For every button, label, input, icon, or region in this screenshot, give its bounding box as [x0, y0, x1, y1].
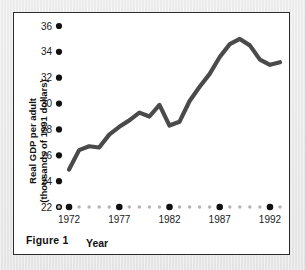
- x-tick-label: 1977: [108, 214, 131, 225]
- x-tick-label: 1987: [209, 214, 232, 225]
- x-major-tick-dot: [66, 204, 73, 211]
- x-minor-tick-dot: [248, 205, 251, 208]
- x-major-tick-dot: [216, 204, 223, 211]
- x-minor-tick-dot: [77, 205, 80, 208]
- y-tick-dot: [56, 75, 62, 81]
- x-minor-tick-dot: [158, 205, 161, 208]
- y-tick-dot: [56, 49, 62, 55]
- gdp-line-chart: 2224262830323436 19721977198219871992 Ye…: [14, 13, 291, 256]
- y-tick-label: 34: [41, 46, 53, 57]
- x-minor-tick-dot: [57, 205, 60, 208]
- figure-panel: 2224262830323436 19721977198219871992 Ye…: [13, 12, 290, 255]
- x-minor-tick-dot: [188, 205, 191, 208]
- y-tick-dot: [56, 126, 62, 132]
- y-tick-dot: [56, 178, 62, 184]
- y-axis-tick-dots: [56, 23, 62, 210]
- x-minor-tick-dot: [208, 205, 211, 208]
- x-minor-tick-dot: [138, 205, 141, 208]
- x-minor-tick-dot: [87, 205, 90, 208]
- x-minor-tick-dot: [128, 205, 131, 208]
- x-tick-label: 1992: [259, 214, 282, 225]
- x-axis-major-tick-dots: [66, 204, 274, 211]
- x-tick-label: 1982: [158, 214, 181, 225]
- x-minor-tick-dot: [258, 205, 261, 208]
- x-minor-tick-dot: [97, 205, 100, 208]
- y-tick-dot: [56, 23, 62, 29]
- x-minor-tick-dot: [148, 205, 151, 208]
- y-tick-label: 36: [41, 21, 53, 32]
- y-axis-title-line2: (thousands of 1991 dollars): [38, 79, 49, 203]
- x-axis-tick-labels: 19721977198219871992: [58, 214, 282, 225]
- x-minor-tick-dot: [178, 205, 181, 208]
- x-minor-tick-dot: [238, 205, 241, 208]
- x-minor-tick-dot: [198, 205, 201, 208]
- x-minor-tick-dot: [108, 205, 111, 208]
- y-tick-dot: [56, 100, 62, 106]
- gdp-series-line: [69, 39, 280, 170]
- x-tick-label: 1972: [58, 214, 81, 225]
- x-minor-tick-dot: [228, 205, 231, 208]
- y-axis-title-line1: Real GDP per adult: [27, 97, 38, 184]
- x-major-tick-dot: [267, 204, 274, 211]
- x-axis-title: Year: [86, 237, 108, 249]
- x-major-tick-dot: [166, 204, 173, 211]
- figure-caption: Figure 1: [26, 234, 68, 246]
- y-tick-dot: [56, 152, 62, 158]
- x-minor-tick-dot: [278, 205, 281, 208]
- x-major-tick-dot: [116, 204, 123, 211]
- chart-plot-area: 2224262830323436 19721977198219871992 Ye…: [14, 13, 291, 256]
